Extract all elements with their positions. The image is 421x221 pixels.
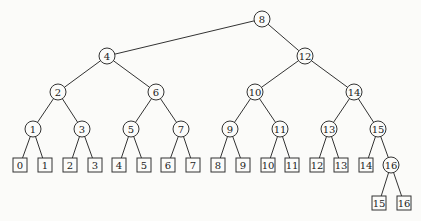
leaf-node-0: 0 (13, 158, 27, 172)
internal-node-10: 10 (247, 84, 263, 100)
leaf-label: 0 (17, 160, 23, 171)
tree-edge (259, 99, 275, 123)
internal-node-14: 14 (346, 84, 362, 100)
tree-edge (311, 61, 347, 88)
node-label: 15 (372, 124, 385, 135)
leaf-node-5: 5 (137, 158, 151, 172)
internal-node-15: 15 (370, 121, 386, 137)
node-label: 11 (274, 124, 287, 135)
node-label: 4 (104, 51, 110, 62)
binary-tree-diagram: 84122610141357911131516 0123456789101112… (0, 0, 421, 221)
tree-edge (121, 137, 128, 158)
tree-edge (85, 137, 93, 158)
leaf-node-6: 6 (161, 158, 175, 172)
leaf-label: 2 (67, 160, 73, 171)
leaf-label: 9 (240, 160, 246, 171)
tree-edge (64, 61, 100, 88)
internal-nodes: 84122610141357911131516 (25, 11, 399, 173)
internal-node-6: 6 (148, 84, 164, 100)
tree-edge (268, 24, 299, 51)
tree-edge (332, 137, 339, 158)
tree-edge (333, 99, 349, 123)
internal-node-5: 5 (123, 121, 139, 137)
tree-edge (220, 137, 227, 158)
leaf-node-7: 7 (186, 158, 200, 172)
tree-edge (160, 99, 176, 123)
internal-node-4: 4 (99, 48, 115, 64)
tree-edge (394, 173, 402, 196)
leaf-node-13: 13 (334, 158, 348, 172)
leaf-label: 6 (165, 160, 171, 171)
node-label: 6 (153, 87, 159, 98)
tree-edge (62, 99, 77, 123)
leaf-node-2: 2 (63, 158, 77, 172)
node-label: 13 (323, 124, 336, 135)
tree-edge (37, 99, 53, 123)
leaf-label: 4 (116, 160, 122, 171)
leaf-node-16: 16 (397, 196, 411, 210)
internal-node-1: 1 (25, 121, 41, 137)
leaf-label: 10 (262, 160, 275, 171)
leaf-label: 15 (373, 198, 386, 209)
tree-edge (381, 173, 388, 196)
tree-edge (184, 137, 191, 158)
internal-node-16: 16 (383, 157, 399, 173)
node-label: 9 (227, 124, 233, 135)
internal-node-8: 8 (254, 11, 270, 27)
leaf-node-8: 8 (211, 158, 225, 172)
tree-edge (134, 137, 142, 158)
node-label: 7 (178, 124, 184, 135)
node-label: 3 (79, 124, 85, 135)
leaf-label: 12 (311, 160, 324, 171)
tree-edge (270, 137, 277, 158)
internal-node-9: 9 (222, 121, 238, 137)
leaf-node-4: 4 (112, 158, 126, 172)
internal-node-13: 13 (321, 121, 337, 137)
tree-edge (319, 137, 326, 158)
tree-edge (283, 137, 290, 158)
leaf-node-11: 11 (285, 158, 299, 172)
leaf-label: 11 (286, 160, 299, 171)
internal-node-3: 3 (74, 121, 90, 137)
leaf-label: 13 (335, 160, 348, 171)
node-label: 1 (30, 124, 36, 135)
node-label: 2 (55, 87, 61, 98)
leaf-label: 8 (215, 160, 221, 171)
tree-edge (135, 99, 151, 123)
leaf-node-14: 14 (359, 158, 373, 172)
leaf-label: 1 (42, 160, 48, 171)
leaf-label: 5 (141, 160, 147, 171)
leaf-node-10: 10 (261, 158, 275, 172)
node-label: 14 (348, 87, 361, 98)
internal-node-11: 11 (272, 121, 288, 137)
internal-node-7: 7 (173, 121, 189, 137)
node-label: 10 (249, 87, 262, 98)
leaf-label: 16 (398, 198, 411, 209)
tree-edge (234, 99, 250, 123)
leaf-label: 3 (92, 160, 98, 171)
node-label: 5 (128, 124, 134, 135)
tree-edge (36, 137, 43, 158)
tree-edge (358, 99, 373, 123)
tree-edge (368, 137, 375, 158)
tree-edge (115, 21, 254, 54)
leaf-node-9: 9 (236, 158, 250, 172)
internal-node-2: 2 (50, 84, 66, 100)
leaf-node-1: 1 (38, 158, 52, 172)
tree-edge (171, 137, 179, 158)
node-label: 16 (385, 160, 398, 171)
leaf-node-15: 15 (372, 196, 386, 210)
leaf-node-12: 12 (310, 158, 324, 172)
tree-edge (261, 61, 298, 88)
leaf-nodes: 012345678910111213141516 (13, 158, 411, 210)
tree-edge (23, 137, 31, 158)
node-label: 12 (299, 51, 312, 62)
tree-edge (381, 137, 389, 158)
node-label: 8 (259, 14, 265, 25)
leaf-label: 14 (360, 160, 373, 171)
leaf-node-3: 3 (88, 158, 102, 172)
tree-edge (72, 137, 79, 158)
tree-edge (113, 61, 149, 88)
tree-edge (233, 137, 241, 158)
internal-node-12: 12 (297, 48, 313, 64)
